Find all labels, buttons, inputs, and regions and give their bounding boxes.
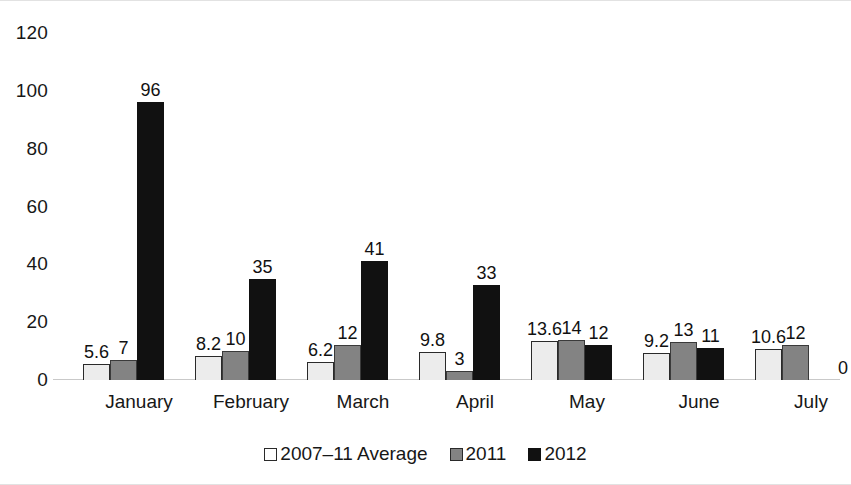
bar-value-label: 3	[454, 349, 464, 370]
bar-value-label: 5.6	[84, 342, 109, 363]
legend-item-2011[interactable]: 2011	[450, 443, 507, 465]
bar-group-bars: 13.6 14 12	[531, 33, 612, 380]
bar-2011[interactable]: 7	[110, 360, 137, 380]
legend-swatch-icon	[450, 448, 463, 461]
bar-value-label: 14	[561, 318, 581, 339]
legend-label: 2007–11 Average	[280, 443, 427, 465]
y-axis-tick: 60	[26, 196, 48, 218]
legend-item-2012[interactable]: 2012	[528, 443, 586, 465]
bar-value-label: 9.2	[644, 331, 669, 352]
bar-2011[interactable]: 3	[446, 371, 473, 380]
bar-2007-11-average[interactable]: 5.6	[83, 364, 110, 380]
bar-2007-11-average[interactable]: 9.8	[419, 352, 446, 380]
bar-2011[interactable]: 12	[334, 345, 361, 380]
bar-value-label: 13	[673, 320, 693, 341]
bar-value-label: 7	[118, 338, 128, 359]
bar-2012[interactable]: 12	[585, 345, 612, 380]
bar-2007-11-average[interactable]: 13.6	[531, 341, 558, 380]
bar-value-label: 12	[588, 323, 608, 344]
x-axis-category-label: January	[83, 391, 195, 413]
legend-item-2007-11-average[interactable]: 2007–11 Average	[264, 443, 427, 465]
y-axis-tick: 0	[37, 369, 48, 391]
bar-2012[interactable]: 11	[697, 348, 724, 380]
legend-label: 2012	[544, 443, 586, 465]
bar-value-label: 10.6	[751, 327, 786, 348]
x-axis-category-label: April	[419, 391, 531, 413]
y-axis-tick: 100	[16, 80, 48, 102]
bar-value-label: 12	[785, 323, 805, 344]
bar-2012[interactable]: 96	[137, 102, 164, 380]
bar-value-label: 96	[140, 80, 160, 101]
bar-group-bars: 9.8 3 33	[419, 33, 500, 380]
legend-swatch-icon	[264, 448, 277, 461]
bar-2007-11-average[interactable]: 10.6	[755, 349, 782, 380]
bar-group-bars: 6.2 12 41	[307, 33, 388, 380]
bar-group: 10.6 12 0 July	[755, 33, 851, 380]
x-axis-category-label: July	[755, 391, 851, 413]
bar-2007-11-average[interactable]: 6.2	[307, 362, 334, 380]
y-axis-tick: 120	[16, 22, 48, 44]
bar-2012[interactable]: 35	[249, 279, 276, 380]
y-axis-tick: 20	[26, 311, 48, 333]
bar-group: 13.6 14 12 May	[531, 33, 643, 380]
legend-swatch-icon	[528, 448, 541, 461]
bar-value-label: 41	[364, 239, 384, 260]
bar-value-label: 10	[225, 329, 245, 350]
x-axis-category-label: February	[195, 391, 307, 413]
y-axis-tick: 40	[26, 253, 48, 275]
bar-2011[interactable]: 13	[670, 342, 697, 380]
bar-value-label: 8.2	[196, 334, 221, 355]
bar-group-bars: 8.2 10 35	[195, 33, 276, 380]
bar-group-bars: 10.6 12 0	[755, 33, 836, 380]
bar-value-label: 33	[476, 263, 496, 284]
bar-2012[interactable]: 41	[361, 261, 388, 380]
bar-2011[interactable]: 10	[222, 351, 249, 380]
x-axis-category-label: March	[307, 391, 419, 413]
bar-group-bars: 5.6 7 96	[83, 33, 164, 380]
bar-2012[interactable]: 33	[473, 285, 500, 380]
bar-2011[interactable]: 12	[782, 345, 809, 380]
bar-value-label: 13.6	[527, 319, 562, 340]
bar-value-label: 35	[252, 257, 272, 278]
bar-value-label: 9.8	[420, 330, 445, 351]
x-axis-category-label: June	[643, 391, 755, 413]
bar-group: 9.2 13 11 June	[643, 33, 755, 380]
y-axis-tick: 80	[26, 138, 48, 160]
chart-figure: 120 100 80 60 40 20 0 5.6 7 96 January	[0, 0, 851, 485]
legend-label: 2011	[466, 443, 507, 465]
bar-2011[interactable]: 14	[558, 340, 585, 380]
plot-area: 120 100 80 60 40 20 0 5.6 7 96 January	[57, 33, 840, 380]
bar-value-label: 11	[701, 326, 720, 347]
bar-group-bars: 9.2 13 11	[643, 33, 724, 380]
bar-2007-11-average[interactable]: 9.2	[643, 353, 670, 380]
bar-2007-11-average[interactable]: 8.2	[195, 356, 222, 380]
bar-value-label: 0	[838, 358, 848, 379]
chart-legend: 2007–11 Average 2011 2012	[0, 443, 851, 465]
bar-group: 9.8 3 33 April	[419, 33, 531, 380]
bar-value-label: 12	[337, 323, 357, 344]
bar-value-label: 6.2	[308, 340, 333, 361]
bar-group: 8.2 10 35 February	[195, 33, 307, 380]
bar-group: 5.6 7 96 January	[83, 33, 195, 380]
bar-group: 6.2 12 41 March	[307, 33, 419, 380]
x-axis-category-label: May	[531, 391, 643, 413]
